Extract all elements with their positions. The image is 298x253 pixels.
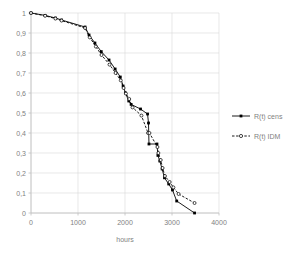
legend-marker xyxy=(239,134,242,137)
data-point-marker xyxy=(44,14,47,17)
y-tick-label: 0,7 xyxy=(16,70,26,77)
legend-marker xyxy=(240,115,243,118)
y-tick-label: 0,1 xyxy=(16,190,26,197)
series-line xyxy=(31,13,195,203)
data-point-marker xyxy=(147,122,150,125)
data-point-marker xyxy=(60,19,63,22)
chart-container: 00,10,20,30,40,50,60,70,80,91 0100020003… xyxy=(0,0,298,253)
data-point-marker xyxy=(157,152,160,155)
data-point-marker xyxy=(131,106,134,109)
data-series-2 xyxy=(30,12,197,205)
data-point-marker xyxy=(168,181,171,184)
data-point-marker xyxy=(54,17,57,20)
y-tick-label: 0,6 xyxy=(16,90,26,97)
x-tick-label: 0 xyxy=(29,219,33,226)
data-point-marker xyxy=(193,202,196,205)
legend-label: R(t) cens xyxy=(254,113,283,121)
y-tick-label: 0,2 xyxy=(16,170,26,177)
data-point-marker xyxy=(100,50,103,53)
x-tick-label: 3000 xyxy=(164,219,180,226)
x-axis-tick-labels: 01000200030004000 xyxy=(29,219,227,226)
data-point-marker xyxy=(156,146,159,149)
y-tick-label: 0,5 xyxy=(16,110,26,117)
data-point-marker xyxy=(88,36,91,39)
x-tick-label: 1000 xyxy=(70,219,86,226)
y-tick-label: 0,3 xyxy=(16,150,26,157)
legend-label: R(t) IDM xyxy=(254,133,281,141)
data-point-marker xyxy=(177,193,180,196)
data-point-marker xyxy=(148,143,151,146)
y-axis-tick-labels: 00,10,20,30,40,50,60,70,80,91 xyxy=(16,10,26,217)
gridlines-group xyxy=(31,13,219,213)
data-point-marker xyxy=(161,167,164,170)
data-point-marker xyxy=(172,186,175,189)
y-tick-label: 0,8 xyxy=(16,50,26,57)
chart-plot-area: 00,10,20,30,40,50,60,70,80,91 0100020003… xyxy=(0,0,298,253)
data-point-marker xyxy=(159,159,162,162)
y-tick-label: 1 xyxy=(22,10,26,17)
y-tick-label: 0,9 xyxy=(16,30,26,37)
axis-lines-group xyxy=(29,13,220,216)
data-point-marker xyxy=(146,113,149,116)
data-point-marker xyxy=(193,212,196,215)
data-point-marker xyxy=(94,45,97,48)
chart-legend: R(t) censR(t) IDM xyxy=(232,113,283,141)
data-point-marker xyxy=(30,12,33,15)
legend-item-1: R(t) cens xyxy=(232,113,283,121)
data-point-marker xyxy=(84,27,87,30)
data-point-marker xyxy=(175,200,178,203)
data-point-marker xyxy=(108,59,111,62)
data-point-marker xyxy=(139,108,142,111)
x-tick-label: 2000 xyxy=(117,219,133,226)
data-point-marker xyxy=(148,132,151,135)
x-tick-label: 4000 xyxy=(211,219,227,226)
data-point-marker xyxy=(122,87,125,90)
data-point-marker xyxy=(128,98,131,101)
data-point-marker xyxy=(108,63,111,66)
data-point-marker xyxy=(140,114,143,117)
data-point-marker xyxy=(124,92,127,95)
y-tick-label: 0 xyxy=(22,210,26,217)
x-axis-title: hours xyxy=(116,236,134,243)
legend-item-2: R(t) IDM xyxy=(232,133,281,141)
data-point-marker xyxy=(114,72,117,75)
data-point-marker xyxy=(163,175,166,178)
data-point-marker xyxy=(114,68,117,71)
y-tick-label: 0,4 xyxy=(16,130,26,137)
data-point-marker xyxy=(119,79,122,82)
data-point-marker xyxy=(100,54,103,57)
